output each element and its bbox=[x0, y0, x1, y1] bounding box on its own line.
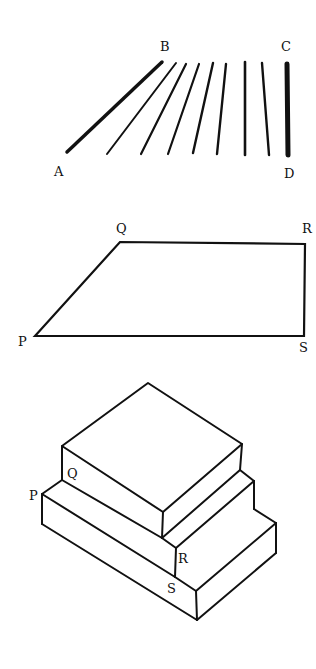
fan-line-8 bbox=[262, 63, 269, 155]
label-s-blocks: S bbox=[167, 581, 176, 596]
label-b: B bbox=[160, 39, 170, 54]
fan-line-6 bbox=[217, 64, 226, 154]
label-r-blocks: R bbox=[178, 551, 189, 566]
label-s-quad: S bbox=[299, 340, 308, 355]
label-q-quad: Q bbox=[116, 221, 127, 236]
label-p-blocks: P bbox=[29, 488, 38, 503]
fan-line-9 bbox=[287, 64, 288, 155]
diagram-canvas: A B C D P Q R S Q P R S bbox=[0, 0, 316, 669]
label-r-quad: R bbox=[302, 221, 313, 236]
fan-line-4 bbox=[168, 64, 199, 154]
label-q-blocks: Q bbox=[67, 466, 78, 481]
stacked-blocks bbox=[42, 383, 276, 620]
label-p-quad: P bbox=[18, 334, 27, 349]
label-c: C bbox=[281, 39, 291, 54]
quadrilateral-pqrs bbox=[35, 242, 305, 336]
figure-line-fan bbox=[67, 62, 288, 155]
fan-line-2 bbox=[107, 63, 176, 154]
fan-line-5 bbox=[193, 63, 213, 153]
label-a: A bbox=[53, 164, 64, 179]
label-d: D bbox=[284, 166, 294, 181]
